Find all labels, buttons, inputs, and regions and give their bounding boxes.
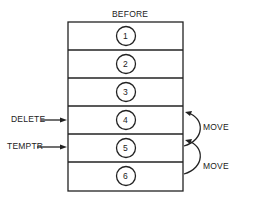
node-label-4: 4 — [123, 115, 128, 125]
move-arc-2 — [184, 141, 200, 174]
delete-arrowhead-icon — [60, 118, 67, 123]
temptr-arrowhead-icon — [60, 145, 67, 150]
node-label-1: 1 — [123, 31, 128, 41]
node-label-3: 3 — [123, 87, 128, 97]
node-label-6: 6 — [123, 171, 128, 181]
node-label-5: 5 — [123, 143, 128, 153]
pointer-label-delete: DELETE — [11, 114, 45, 124]
move-label-1: MOVE — [203, 122, 229, 132]
pointer-label-temptr: TEMPTR — [7, 141, 43, 151]
node-label-2: 2 — [123, 59, 128, 69]
move-label-2: MOVE — [203, 161, 229, 171]
move-arrowhead-icon — [185, 111, 192, 116]
